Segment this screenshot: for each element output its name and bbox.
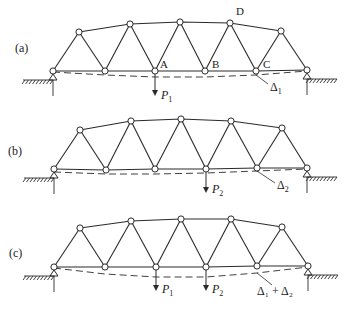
pin-joint-icon [254, 165, 260, 171]
ground-hatch [324, 79, 327, 83]
ground-hatch [331, 177, 334, 181]
pin-joint-icon [228, 216, 234, 222]
ground-hatch [335, 275, 338, 279]
panel-label: (c) [9, 246, 22, 260]
pin-joint-icon [127, 21, 133, 27]
ground-hatch [334, 177, 337, 181]
ground-hatch [43, 80, 46, 84]
left-support [22, 74, 57, 96]
joint-label-a: A [160, 58, 168, 70]
diagonal-member [231, 219, 257, 266]
load-arrow-p2: P2 [203, 270, 223, 298]
ground-hatch [27, 178, 30, 182]
ground-hatch [327, 79, 330, 83]
pin-joint-icon [203, 166, 209, 172]
ground-hatch [321, 275, 324, 279]
pin-joint-icon [50, 68, 56, 74]
pin-joint-icon [152, 68, 158, 74]
ground-hatch [41, 178, 44, 182]
arrow-down-icon [152, 90, 158, 96]
pin-joint-icon [77, 225, 83, 231]
diagonal-member [155, 119, 181, 169]
pin-joint-icon [178, 116, 184, 122]
truss-panel-c: (c)P1P2Δ₁ + Δ₂ [9, 216, 338, 298]
ground-hatch [314, 275, 317, 279]
pin-joint-icon [203, 264, 209, 270]
bottom-chord [53, 70, 307, 71]
pin-joint-icon [304, 165, 310, 171]
load-arrow-p1: P1 [153, 270, 173, 298]
diagonal-member [106, 121, 131, 170]
ground-hatch [48, 178, 51, 182]
diagonal-member [230, 23, 256, 71]
ground-hatch [334, 79, 337, 83]
diagonal-member [54, 130, 80, 169]
ground-hatch [27, 276, 30, 280]
diagonal-member [281, 31, 307, 70]
ground-hatch [310, 177, 313, 181]
ground-hatch [307, 275, 310, 279]
ground-hatch [41, 276, 44, 280]
diagonal-member [105, 24, 130, 71]
diagonal-member [180, 22, 205, 71]
panels: (a)ABCDP1Δ1(b)P2Δ2(c)P1P2Δ₁ + Δ₂ [8, 5, 338, 298]
deflection-label: Δ2 [277, 178, 289, 194]
ground-hatch [23, 276, 26, 280]
ground-hatch [317, 79, 320, 83]
pin-joint-icon [153, 264, 159, 270]
diagonal-member [80, 228, 105, 267]
diagonal-member [80, 130, 106, 170]
ground-hatch [310, 79, 313, 83]
diagonal-member [206, 219, 231, 267]
pin-joint-icon [278, 28, 284, 34]
ground-hatch [40, 80, 43, 84]
ground-hatch [36, 80, 39, 84]
ground-hatch [34, 276, 37, 280]
ground-hatch [30, 276, 33, 280]
left-support [23, 270, 58, 292]
pin-joint-icon [103, 167, 109, 173]
pin-support-icon [303, 73, 311, 79]
joint-label-c: C [263, 58, 270, 70]
pin-joint-icon [254, 263, 260, 269]
ground-hatch [311, 275, 314, 279]
deflection-leader-line [257, 171, 275, 183]
pin-joint-icon [152, 166, 158, 172]
pin-joint-icon [102, 68, 108, 74]
bottom-chord [54, 168, 307, 170]
pin-joint-icon [128, 218, 134, 224]
pin-joint-icon [227, 20, 233, 26]
ground-hatch [317, 177, 320, 181]
diagonal-member [156, 219, 181, 267]
diagonal-member [181, 119, 206, 169]
deflection-leader-line [256, 75, 268, 84]
pin-support-icon [50, 270, 58, 276]
ground-hatch [318, 275, 321, 279]
diagonal-member [206, 121, 231, 169]
ground-hatch [48, 276, 51, 280]
truss-members [54, 219, 308, 267]
deflected-shape-line [54, 267, 308, 277]
pin-joint-icon [77, 127, 83, 133]
ground-hatch [331, 79, 334, 83]
pin-joint-icon [177, 19, 183, 25]
deflection-marker: Δ1 [256, 75, 282, 96]
ground-hatch [44, 178, 47, 182]
pin-joint-icon [178, 216, 184, 222]
pin-joint-icon [279, 224, 285, 230]
arrow-down-icon [203, 285, 209, 291]
diagonal-member [257, 227, 282, 266]
ground-hatch [37, 178, 40, 182]
pin-joint-icon [305, 263, 311, 269]
diagonal-member [54, 228, 80, 267]
right-support [303, 73, 337, 95]
ground-hatch [327, 177, 330, 181]
pin-joint-icon [51, 264, 57, 270]
ground-hatch [324, 177, 327, 181]
pin-support-icon [50, 172, 58, 178]
joint-label-b: B [212, 58, 219, 70]
left-support [23, 172, 58, 194]
ground-hatch [37, 276, 40, 280]
ground-hatch [328, 275, 331, 279]
truss-superposition-figure: (a)ABCDP1Δ1(b)P2Δ2(c)P1P2Δ₁ + Δ₂ [0, 0, 363, 310]
